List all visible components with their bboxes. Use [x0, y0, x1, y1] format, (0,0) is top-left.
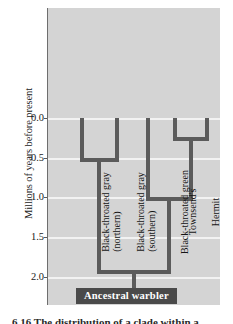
- gridline-0-5: [48, 158, 220, 160]
- branch-tip-hermit: [205, 118, 209, 139]
- taxon-label-townsends: Townsend's: [187, 189, 198, 236]
- taxon-label-black-throated-gray-southern: Black-throated gray (southern): [134, 172, 156, 252]
- branch-stem-green-clade: [167, 197, 171, 272]
- branch-tip-black-throated-gray-northern: [80, 118, 84, 160]
- taxon-label-line1: Black-throated gray: [99, 172, 110, 252]
- taxon-label-line1: Townsend's: [187, 189, 198, 236]
- y-axis-tick-labels: 0.0 0.5 1.0 1.5 2.0: [14, 0, 44, 324]
- taxon-label-line2: (northern): [110, 172, 121, 252]
- gridline-0: [48, 118, 220, 120]
- taxon-label-black-throated-gray-northern: Black-throated gray (northern): [99, 172, 121, 252]
- taxon-label-line1: Hermit: [210, 198, 221, 226]
- branch-stem-root: [132, 270, 136, 288]
- y-tick-label-3: 1.5: [18, 232, 44, 243]
- ancestral-warbler-label: Ancestral warbler: [76, 288, 177, 304]
- phylogenetic-tree-figure: Millions of years before present 0.0 0.5…: [0, 0, 233, 324]
- taxon-label-line1: Black-throated gray: [134, 172, 145, 252]
- y-tick-label-4: 2.0: [18, 272, 44, 283]
- branch-tip-black-throated-gray-southern: [115, 118, 119, 160]
- plot-area: Ancestral warbler: [48, 8, 220, 305]
- branch-tip-townsends: [173, 118, 177, 139]
- taxon-label-line2: (southern): [145, 172, 156, 252]
- taxon-label-hermit: Hermit: [210, 198, 221, 226]
- figure-caption: 6.16 The distribution of a clade within …: [12, 316, 227, 324]
- y-tick-label-1: 0.5: [18, 153, 44, 164]
- y-tick-label-2: 1.0: [18, 192, 44, 203]
- y-tick-label-0: 0.0: [18, 113, 44, 124]
